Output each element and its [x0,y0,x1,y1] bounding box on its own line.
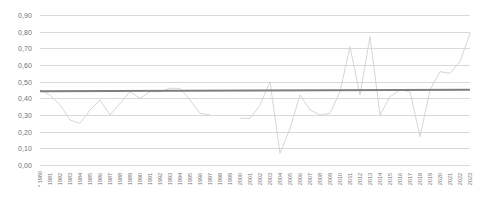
data-series-layer [40,15,470,165]
x-axis-tick-label: 2006 [295,167,305,199]
x-axis-tick-label: 1981 [45,167,55,199]
y-axis-tick-label: 0,10 [18,145,32,152]
x-axis-tick-label: 2021 [445,167,455,199]
x-axis-tick-label: 2008 [315,167,325,199]
y-axis-tick-label: 0,70 [18,45,32,52]
x-axis-tick-label: 2011 [345,167,355,199]
y-axis-tick-label: 0,50 [18,78,32,85]
y-axis-tick-label: 0,90 [18,12,32,19]
x-axis-tick-label: 2020 [435,167,445,199]
x-axis-tick-label: 2014 [375,167,385,199]
x-axis-tick-label: 1984 [75,167,85,199]
x-axis-tick-label: 2023 [465,167,475,199]
x-axis-tick-label: 2009 [325,167,335,199]
x-axis-tick-label: 1990 [135,167,145,199]
x-axis-tick-label: 2001 [245,167,255,199]
x-axis-tick-label: 2019 [425,167,435,199]
x-axis-tick-label: 2022 [455,167,465,199]
x-axis-tick-label: 1999 [225,167,235,199]
x-axis-tick-label: 1989 [125,167,135,199]
y-axis-tick-label: 0,60 [18,62,32,69]
x-axis-tick-label: 1995 [185,167,195,199]
x-axis-tick-label: 1987 [105,167,115,199]
x-axis-tick-label: 2017 [405,167,415,199]
x-axis-tick-label: 2012 [355,167,365,199]
y-axis-tick-label: 0,80 [18,28,32,35]
x-axis-tick-label: 1998 [215,167,225,199]
y-axis-tick-label: 0,00 [18,162,32,169]
x-axis-tick-label: 2002 [255,167,265,199]
y-axis-tick-label: 0,30 [18,112,32,119]
x-axis-tick-label: 2005 [285,167,295,199]
x-axis-tick-label: 1983 [65,167,75,199]
plot-area [40,15,470,165]
x-axis-tick-label: 1988 [115,167,125,199]
x-axis-tick-label: 1997 [205,167,215,199]
x-axis-tick-label: 1986 [95,167,105,199]
x-axis-tick-label: 2015 [385,167,395,199]
chart-container: 0,900,800,700,600,500,400,300,200,100,00… [0,0,481,201]
x-axis-tick-label: 1994 [175,167,185,199]
x-axis-tick-label: 2013 [365,167,375,199]
x-axis-tick-label: 2004 [275,167,285,199]
x-axis-tick-label: 2016 [395,167,405,199]
x-axis: * 19801981198219831984198519861987198819… [40,167,470,201]
x-axis-tick-label: 1991 [145,167,155,199]
x-axis-tick-label: 2000 [235,167,245,199]
x-axis-tick-label: 1992 [155,167,165,199]
x-axis-tick-label: * 1980 [35,167,45,199]
x-axis-tick-label: 1996 [195,167,205,199]
x-axis-tick-label: 1982 [55,167,65,199]
y-axis-tick-label: 0,20 [18,128,32,135]
y-axis: 0,900,800,700,600,500,400,300,200,100,00 [0,15,36,165]
data-series-line [40,33,470,153]
x-axis-tick-label: 2007 [305,167,315,199]
x-axis-tick-label: 2018 [415,167,425,199]
x-axis-tick-label: 2010 [335,167,345,199]
x-axis-tick-label: 1993 [165,167,175,199]
x-axis-tick-label: 2003 [265,167,275,199]
gridline [40,165,470,166]
x-axis-tick-label: 1985 [85,167,95,199]
y-axis-tick-label: 0,40 [18,95,32,102]
